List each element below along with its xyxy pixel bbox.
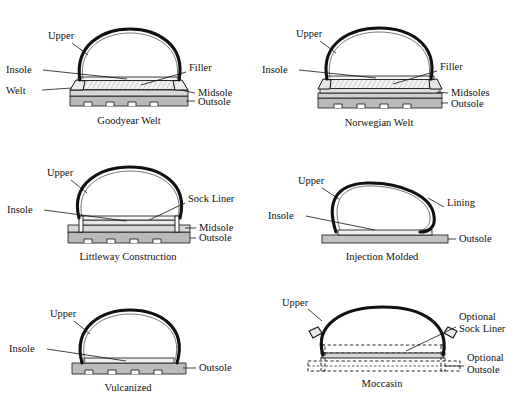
filler-shape	[83, 81, 175, 90]
caption-norwegian-welt: Norwegian Welt	[345, 117, 414, 128]
label-optional-sock-liner-line1: Optional	[459, 311, 496, 322]
upper-inner-line	[84, 314, 177, 361]
caption-vulcanized: Vulcanized	[104, 382, 152, 393]
optional-outsole-shape	[308, 361, 460, 371]
label-outsole: Outsole	[198, 96, 231, 107]
upper-shape	[326, 28, 432, 79]
caption-goodyear-welt: Goodyear Welt	[97, 115, 160, 126]
caption-moccasin: Moccasin	[362, 378, 404, 389]
label-optional-outsole-line1: Optional	[467, 352, 504, 363]
diagram-injection-molded: Upper Insole Lining Outsole Injection Mo…	[260, 140, 519, 278]
label-sock-liner: Sock Liner	[188, 193, 235, 204]
label-insole: Insole	[9, 343, 35, 354]
outsole-shape	[72, 363, 186, 374]
leader-insole	[306, 216, 375, 230]
label-upper: Upper	[298, 175, 325, 186]
upper-shape	[77, 167, 181, 218]
midsole-shape	[70, 90, 188, 96]
label-outsole: Outsole	[451, 98, 484, 109]
label-upper: Upper	[282, 297, 309, 308]
label-insole: Insole	[6, 64, 32, 75]
label-outsole: Outsole	[199, 232, 232, 243]
outsole-shape	[68, 232, 190, 243]
label-upper: Upper	[296, 28, 323, 39]
label-outsole: Outsole	[459, 233, 492, 244]
upper-tabs	[309, 327, 457, 338]
diagram-sheet: Upper Insole Welt Filler Midsole Outsole…	[0, 0, 519, 414]
insole-shape	[338, 230, 432, 235]
label-upper: Upper	[48, 30, 75, 41]
insole-shape	[78, 77, 180, 81]
label-welt: Welt	[6, 85, 26, 96]
label-filler: Filler	[189, 62, 212, 73]
midsoles-shape	[318, 89, 442, 99]
label-insole: Insole	[7, 204, 33, 215]
label-upper: Upper	[47, 167, 74, 178]
caption-littleway-construction: Littleway Construction	[79, 251, 177, 262]
label-insole: Insole	[268, 210, 294, 221]
upper-shape	[79, 29, 180, 80]
diagram-goodyear-welt: Upper Insole Welt Filler Midsole Outsole…	[0, 0, 259, 138]
caption-injection-molded: Injection Molded	[346, 251, 419, 262]
label-optional-outsole-line2: Outsole	[467, 364, 500, 375]
label-insole: Insole	[262, 64, 288, 75]
outsole-shape	[322, 235, 448, 243]
leader-upper	[308, 309, 322, 321]
insole-shape	[84, 358, 174, 363]
insole-shape	[80, 220, 178, 225]
label-outsole: Outsole	[199, 362, 232, 373]
label-filler: Filler	[440, 61, 463, 72]
diagram-vulcanized: Upper Insole Outsole Vulcanized	[0, 278, 259, 414]
label-optional-sock-liner-line2: Sock Liner	[459, 323, 506, 334]
upper-inner-line	[81, 171, 179, 217]
label-midsoles: Midsoles	[451, 87, 490, 98]
label-upper: Upper	[50, 308, 77, 319]
filler-shape	[330, 80, 430, 89]
diagram-norwegian-welt: Upper Insole Filler Midsoles Outsole Nor…	[260, 0, 519, 138]
leader-optional-sock-liner	[406, 327, 456, 351]
leader-welt	[42, 88, 72, 90]
moccasin-sole-band	[322, 353, 444, 358]
label-lining: Lining	[447, 197, 476, 208]
optional-sock-liner-shape	[322, 345, 444, 353]
diagram-littleway-construction: Upper Insole Sock Liner Midsole Outsole …	[0, 140, 259, 278]
midsole-shape	[68, 225, 190, 232]
outsole-shape	[318, 98, 442, 108]
diagram-moccasin: Upper Optional Sock Liner Optional Outso…	[260, 278, 519, 414]
outsole-shape	[70, 96, 188, 106]
upper-shape	[80, 310, 179, 363]
upper-shape	[321, 307, 444, 355]
